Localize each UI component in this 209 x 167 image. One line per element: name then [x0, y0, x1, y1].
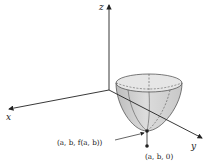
surface-point-label: (a, b, f(a, b))	[57, 138, 103, 147]
paraboloid-diagram: z x y (a, b, f(a, b)) (a, b, 0)	[0, 0, 209, 167]
point-on-surface	[145, 129, 149, 133]
label-pointer-arrow	[115, 133, 144, 140]
point-on-plane	[145, 144, 149, 148]
plane-point-label: (a, b, 0)	[145, 152, 173, 161]
x-axis-label: x	[6, 112, 11, 122]
z-axis-label: z	[98, 2, 104, 12]
y-axis-label: y	[190, 141, 197, 151]
x-axis	[9, 90, 109, 109]
